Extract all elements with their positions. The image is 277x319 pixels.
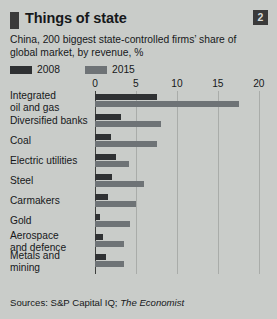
source-publication: The Economist <box>120 297 184 308</box>
category-label: Integratedoil and gas <box>10 90 92 113</box>
bar-2015 <box>95 141 157 147</box>
legend-item-2008[interactable]: 2008 <box>10 64 60 75</box>
x-tick-label-15: 15 <box>212 78 223 89</box>
title-accent-rule <box>10 12 19 29</box>
bars-container <box>95 211 267 231</box>
category-label-line: Steel <box>10 176 92 187</box>
category-label: Carmakers <box>10 196 92 207</box>
legend-swatch-2008 <box>10 66 32 74</box>
bar-group-row: Diversified banks <box>10 111 267 131</box>
category-label: Diversified banks <box>10 116 92 127</box>
bars-container <box>95 251 267 271</box>
bar-2015 <box>95 101 239 107</box>
legend-label-2008: 2008 <box>37 64 60 75</box>
bar-2015 <box>95 221 130 227</box>
category-label-line: Diversified banks <box>10 116 92 127</box>
category-label-line: Metals and mining <box>10 250 92 273</box>
category-label: Electric utilities <box>10 156 92 167</box>
x-tick-label-20: 20 <box>253 78 264 89</box>
panel-number-badge: 2 <box>253 10 268 25</box>
category-label-line: Coal <box>10 136 92 147</box>
bars-container <box>95 151 267 171</box>
bar-group-row: Coal <box>10 131 267 151</box>
category-label: Metals and mining <box>10 250 92 273</box>
bar-group-row: Metals and mining <box>10 251 267 271</box>
category-label: Steel <box>10 176 92 187</box>
category-label-line: Gold <box>10 216 92 227</box>
source-prefix: Sources: S&P Capital IQ; <box>10 297 120 308</box>
bar-2008 <box>95 194 108 200</box>
bar-group-row: Steel <box>10 171 267 191</box>
bar-group-row: Gold <box>10 211 267 231</box>
category-label-line: Integrated <box>10 90 92 101</box>
title-row: Things of state <box>10 11 267 29</box>
bar-2008 <box>95 254 106 260</box>
chart-legend: 20082015 <box>10 64 267 75</box>
bar-2008 <box>95 134 111 140</box>
bar-2015 <box>95 261 124 267</box>
legend-swatch-2015 <box>85 66 107 74</box>
bar-rows: Integratedoil and gasDiversified banksCo… <box>10 91 267 274</box>
bar-2015 <box>95 121 161 127</box>
bars-container <box>95 191 267 211</box>
category-label-line: Carmakers <box>10 196 92 207</box>
x-tick-label-0: 0 <box>92 78 98 89</box>
chart-card: Things of state 2 China, 200 biggest sta… <box>0 0 277 319</box>
legend-label-2015: 2015 <box>112 64 135 75</box>
bars-container <box>95 91 267 111</box>
bar-group-row: Carmakers <box>10 191 267 211</box>
bar-2008 <box>95 154 116 160</box>
bar-2008 <box>95 114 121 120</box>
bar-2008 <box>95 234 103 240</box>
bars-container <box>95 231 267 251</box>
bars-container <box>95 171 267 191</box>
bar-2008 <box>95 174 112 180</box>
chart-header: Things of state 2 China, 200 biggest sta… <box>0 0 277 75</box>
bar-group-row: Electric utilities <box>10 151 267 171</box>
category-label: Gold <box>10 216 92 227</box>
bar-2015 <box>95 161 129 167</box>
bar-group-row: Integratedoil and gas <box>10 91 267 111</box>
bar-2008 <box>95 94 157 100</box>
source-note: Sources: S&P Capital IQ; The Economist <box>10 297 184 308</box>
bar-2015 <box>95 201 136 207</box>
chart-subtitle: China, 200 biggest state-controlled firm… <box>10 33 256 59</box>
bars-container <box>95 111 267 131</box>
bar-2015 <box>95 241 124 247</box>
bar-group-row: Aerospaceand defence <box>10 231 267 251</box>
plot-area: 05101520 Integratedoil and gasDiversifie… <box>10 78 267 274</box>
bar-2008 <box>95 214 100 220</box>
x-tick-label-5: 5 <box>133 78 139 89</box>
legend-item-2015[interactable]: 2015 <box>85 64 135 75</box>
bar-2015 <box>95 181 144 187</box>
category-label-line: Electric utilities <box>10 156 92 167</box>
x-axis-tick-labels: 05101520 <box>95 78 267 91</box>
category-label-line: Aerospace <box>10 230 92 241</box>
category-label: Coal <box>10 136 92 147</box>
x-tick-label-10: 10 <box>171 78 182 89</box>
bars-container <box>95 131 267 151</box>
page-title: Things of state <box>25 11 127 27</box>
